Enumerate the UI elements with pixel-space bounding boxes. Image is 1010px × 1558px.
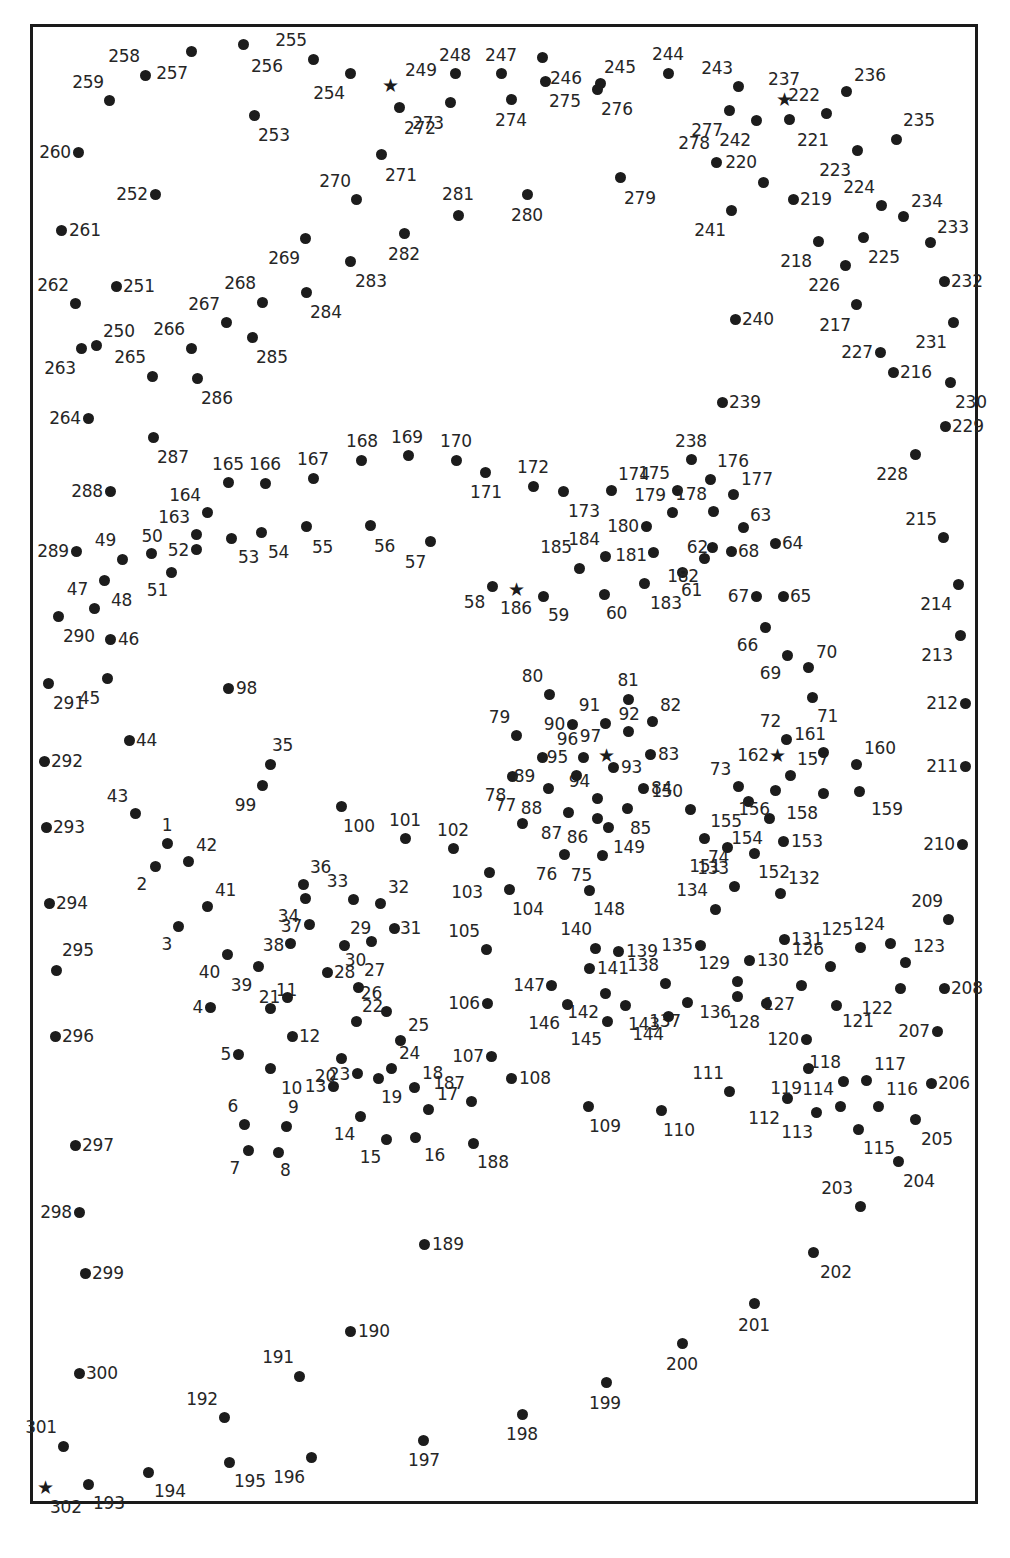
dot-label-182: 182 (667, 568, 699, 585)
dot-marker-199 (601, 1377, 612, 1388)
dot-marker-293 (41, 822, 52, 833)
dot-label-100: 100 (343, 818, 375, 835)
dot-marker-298 (74, 1207, 85, 1218)
star-marker-162: ★ (769, 747, 786, 764)
dot-label-131: 131 (791, 931, 823, 948)
dot-label-59: 59 (548, 607, 569, 624)
dot-marker-117 (861, 1075, 872, 1086)
dot-marker-49 (117, 554, 128, 565)
dot-label-58: 58 (464, 594, 485, 611)
star-marker-249: ★ (382, 77, 399, 94)
dot-marker-63 (738, 522, 749, 533)
dot-label-180: 180 (607, 518, 639, 535)
dot-marker-179 (667, 507, 678, 518)
dot-label-244: 244 (652, 46, 684, 63)
dot-label-248: 248 (439, 47, 471, 64)
dot-marker-275 (540, 76, 551, 87)
dot-label-32: 32 (388, 879, 409, 896)
dot-label-222: 222 (788, 87, 820, 104)
dot-marker-148 (584, 885, 595, 896)
dot-marker-266 (186, 343, 197, 354)
dot-marker-111 (724, 1086, 735, 1097)
dot-marker-74 (699, 833, 710, 844)
dot-marker-124 (885, 938, 896, 949)
dot-marker-6 (239, 1119, 250, 1130)
dot-marker-91 (600, 718, 611, 729)
dot-label-99: 99 (235, 797, 256, 814)
dot-marker-121 (831, 1000, 842, 1011)
dot-label-175: 175 (638, 465, 670, 482)
dot-label-198: 198 (506, 1426, 538, 1443)
dot-label-150: 150 (651, 783, 683, 800)
dot-label-238: 238 (675, 433, 707, 450)
dot-marker-280 (522, 189, 533, 200)
dot-label-293: 293 (53, 819, 85, 836)
dot-marker-57 (425, 536, 436, 547)
dot-label-125: 125 (821, 921, 853, 938)
dot-label-240: 240 (742, 311, 774, 328)
dot-marker-47 (89, 603, 100, 614)
dot-marker-147 (546, 980, 557, 991)
dot-label-171: 171 (470, 484, 502, 501)
dot-label-177: 177 (741, 471, 773, 488)
dot-label-259: 259 (72, 74, 104, 91)
dot-label-3: 3 (161, 936, 172, 953)
dot-marker-236 (841, 86, 852, 97)
dot-marker-79 (511, 730, 522, 741)
dot-label-92: 92 (618, 706, 639, 723)
dot-marker-59 (538, 591, 549, 602)
dot-marker-43 (130, 808, 141, 819)
dot-marker-227 (875, 347, 886, 358)
dot-marker-40 (222, 949, 233, 960)
dot-label-164: 164 (169, 487, 201, 504)
dot-marker-267 (221, 317, 232, 328)
dot-label-156: 156 (738, 801, 770, 818)
dot-marker-192 (219, 1412, 230, 1423)
dot-marker-33 (348, 894, 359, 905)
dot-label-269: 269 (268, 250, 300, 267)
dot-marker-253 (249, 110, 260, 121)
dot-label-57: 57 (405, 554, 426, 571)
dot-label-50: 50 (141, 528, 162, 545)
dot-label-208: 208 (951, 980, 983, 997)
dot-label-132: 132 (788, 870, 820, 887)
dot-label-81: 81 (617, 672, 638, 689)
dot-label-183: 183 (650, 595, 682, 612)
dot-label-7: 7 (229, 1160, 240, 1177)
dot-marker-251 (111, 281, 122, 292)
dot-label-85: 85 (630, 820, 651, 837)
dot-marker-64 (770, 538, 781, 549)
dot-label-270: 270 (319, 173, 351, 190)
dot-label-35: 35 (272, 737, 293, 754)
dot-marker-213 (955, 630, 966, 641)
dot-label-41: 41 (215, 882, 236, 899)
dot-label-105: 105 (448, 923, 480, 940)
dot-marker-262 (70, 298, 81, 309)
dot-label-135: 135 (661, 937, 693, 954)
dot-marker-209 (943, 914, 954, 925)
dot-label-83: 83 (658, 746, 679, 763)
dot-marker-203 (855, 1201, 866, 1212)
dot-label-294: 294 (56, 895, 88, 912)
dot-marker-287 (148, 432, 159, 443)
dot-marker-75 (597, 850, 608, 861)
dot-label-153: 153 (791, 833, 823, 850)
dot-marker-145 (602, 1016, 613, 1027)
dot-label-64: 64 (782, 535, 803, 552)
dot-marker-187 (466, 1096, 477, 1107)
dot-label-258: 258 (108, 48, 140, 65)
dot-marker-157 (785, 770, 796, 781)
dot-marker-224 (876, 200, 887, 211)
dot-label-117: 117 (874, 1056, 906, 1073)
dot-marker-216 (888, 367, 899, 378)
dot-marker-144 (663, 1011, 674, 1022)
dot-label-233: 233 (937, 219, 969, 236)
dot-marker-201 (749, 1298, 760, 1309)
dot-marker-73 (733, 781, 744, 792)
dot-marker-142 (600, 988, 611, 999)
dot-label-86: 86 (567, 829, 588, 846)
star-marker-302: ★ (37, 1479, 54, 1496)
dot-label-8: 8 (280, 1162, 291, 1179)
dot-marker-26 (381, 1006, 392, 1017)
dot-label-119: 119 (770, 1080, 802, 1097)
